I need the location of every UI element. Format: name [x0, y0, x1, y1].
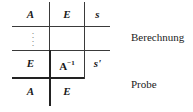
cell-r1-c2: E [50, 7, 84, 21]
cell-r3-c2: A−1 [50, 56, 84, 73]
cell-r3-c1: E [12, 56, 49, 70]
cell-r1-c1: A [12, 7, 49, 21]
vertical-ellipsis: ···· [30, 31, 36, 47]
cell-r4-c2: E [50, 84, 84, 98]
h-line-1 [12, 26, 110, 27]
label-probe: Probe [131, 77, 157, 91]
h-line-bold [12, 77, 84, 79]
h-line-2 [12, 50, 110, 51]
cell-r3-c3: s' [85, 56, 110, 70]
label-berechnung: Berechnung [131, 30, 184, 44]
inverse-exponent: −1 [67, 59, 75, 67]
cell-r4-c1: A [12, 84, 49, 98]
cell-r1-c3: s [85, 7, 110, 21]
